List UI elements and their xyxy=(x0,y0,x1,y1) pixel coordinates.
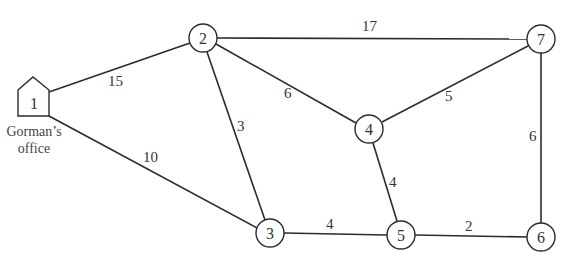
network-diagram: 15 10 3 6 17 5 4 4 2 6 1 Gorman’s office… xyxy=(0,0,573,260)
node-1-house: 1 xyxy=(18,77,49,116)
node-5: 5 xyxy=(387,221,415,249)
node-label-3: 3 xyxy=(266,225,274,242)
node-2: 2 xyxy=(189,24,217,52)
edge-1-3 xyxy=(49,116,257,228)
node-label-2: 2 xyxy=(199,30,207,47)
weight-4-5: 4 xyxy=(389,174,397,190)
diagram-svg: 15 10 3 6 17 5 4 4 2 6 1 Gorman’s office… xyxy=(0,0,573,260)
edges xyxy=(49,38,541,237)
node-3: 3 xyxy=(256,219,284,247)
node-7: 7 xyxy=(527,25,555,53)
weight-2-4: 6 xyxy=(284,85,292,101)
weight-2-7: 17 xyxy=(362,18,378,34)
weight-1-2: 15 xyxy=(108,73,123,89)
weight-3-5: 4 xyxy=(326,216,334,232)
edge-2-7 xyxy=(217,38,527,39)
edge-3-5 xyxy=(284,233,387,235)
weight-2-3: 3 xyxy=(237,118,245,134)
node-6: 6 xyxy=(527,223,555,251)
office-caption-line2: office xyxy=(18,141,50,156)
node-label-6: 6 xyxy=(537,229,545,246)
node-label-1: 1 xyxy=(30,95,38,112)
edge-5-6 xyxy=(415,235,527,237)
edge-2-3 xyxy=(207,52,265,220)
weight-1-3: 10 xyxy=(143,149,158,165)
edge-4-7 xyxy=(382,46,528,122)
node-label-4: 4 xyxy=(365,121,373,138)
weight-7-6: 6 xyxy=(529,128,537,144)
edge-2-4 xyxy=(216,44,356,123)
node-label-7: 7 xyxy=(537,31,545,48)
weight-5-6: 2 xyxy=(465,218,473,234)
node-4: 4 xyxy=(355,115,383,143)
edge-weights: 15 10 3 6 17 5 4 4 2 6 xyxy=(108,18,537,234)
weight-4-7: 5 xyxy=(445,88,453,104)
node-label-5: 5 xyxy=(397,227,405,244)
office-caption-line1: Gorman’s xyxy=(6,124,61,139)
